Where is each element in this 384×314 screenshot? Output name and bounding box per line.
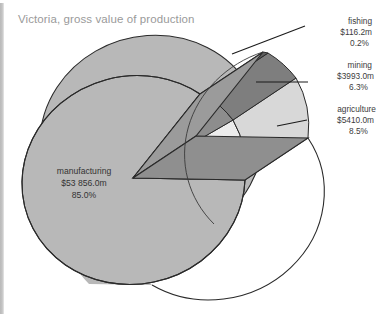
label-mining-value: $3993.0m	[337, 71, 374, 81]
chart-page: Victoria, gross value of production	[0, 0, 384, 314]
label-manufacturing-value: $53 856.0m	[61, 178, 106, 188]
pie-chart-figure: fishing $116.2m 0.2% mining $3993.0m 6.3…	[0, 0, 384, 314]
label-manufacturing-name: manufacturing	[57, 166, 112, 176]
label-fishing-percent: 0.2%	[350, 38, 370, 48]
label-agriculture-value: $5410.0m	[337, 115, 374, 125]
label-agriculture: agriculture $5410.0m 8.5%	[337, 104, 376, 136]
label-manufacturing-percent: 85.0%	[72, 190, 97, 200]
label-fishing: fishing $116.2m 0.2%	[340, 16, 372, 48]
label-mining: mining $3993.0m 6.3%	[337, 60, 374, 92]
label-fishing-name: fishing	[348, 16, 372, 26]
label-mining-percent: 6.3%	[349, 82, 369, 92]
label-agriculture-percent: 8.5%	[349, 126, 369, 136]
leader-line-fishing	[232, 26, 305, 54]
label-agriculture-name: agriculture	[337, 104, 376, 114]
label-fishing-value: $116.2m	[340, 27, 372, 37]
label-mining-name: mining	[348, 60, 373, 70]
